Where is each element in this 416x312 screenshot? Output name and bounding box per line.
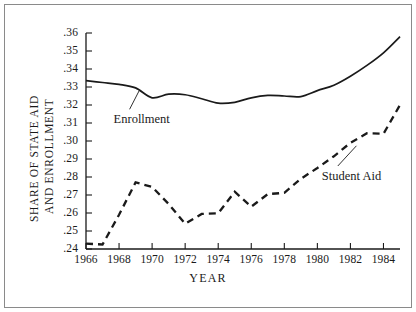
y-axis-ticks — [86, 33, 92, 249]
y-axis-tick-label: .27 — [52, 188, 78, 200]
series-line-enrollment — [86, 37, 400, 104]
y-axis-tick-label: .31 — [52, 116, 78, 128]
x-axis-tick-label: 1984 — [363, 253, 403, 265]
y-axis-tick-label: .35 — [52, 44, 78, 56]
y-axis-tick-label: .28 — [52, 170, 78, 182]
annotation-leader-lines — [130, 90, 357, 166]
y-axis-tick-label: .34 — [52, 62, 78, 74]
x-axis-title: YEAR — [0, 271, 416, 286]
y-axis-tick-label: .25 — [52, 224, 78, 236]
data-series-group — [86, 37, 400, 245]
x-axis-ticks — [86, 243, 383, 249]
y-axis-title-line-1: SHARE OF STATE AID — [28, 95, 40, 222]
chart-figure: .24.25.26.27.28.29.30.31.32.33.34.35.36 … — [0, 0, 416, 312]
y-axis-tick-label: .30 — [52, 134, 78, 146]
leader-line-enrollment — [130, 90, 140, 109]
y-axis-tick-label: .29 — [52, 152, 78, 164]
series-label-enrollment: Enrollment — [114, 112, 170, 127]
series-label-student-aid: Student Aid — [322, 169, 381, 184]
y-axis-tick-label: .26 — [52, 206, 78, 218]
y-axis-tick-label: .36 — [52, 26, 78, 38]
y-axis-tick-label: .33 — [52, 80, 78, 92]
y-axis-title-line-2: AND ENROLLMENT — [43, 98, 55, 214]
y-axis-tick-label: .32 — [52, 98, 78, 110]
leader-line-student-aid — [338, 146, 357, 166]
